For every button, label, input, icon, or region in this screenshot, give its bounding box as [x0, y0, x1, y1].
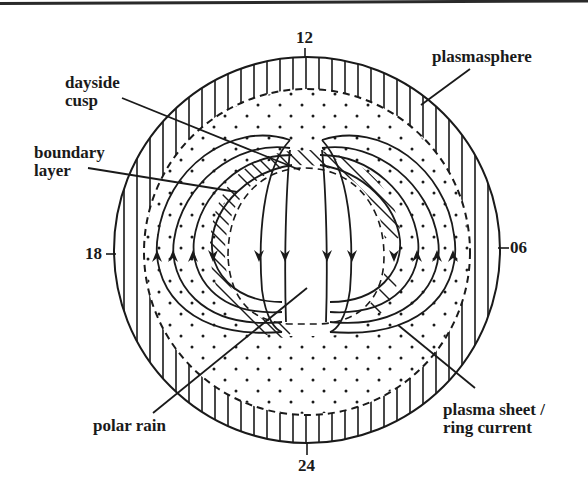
clock-marker-24: 24 [298, 457, 315, 475]
label-plasma-sheet: plasma sheet / ring current [443, 401, 545, 437]
clock-marker-06: 06 [510, 239, 527, 257]
clock-marker-18: 18 [85, 245, 102, 263]
label-plasma-sheet-line1: plasma sheet / [443, 401, 545, 419]
label-plasmasphere-line1: plasmasphere [432, 48, 532, 66]
label-dayside-cusp: dayside cusp [65, 74, 120, 110]
leader-plasmasphere [421, 69, 470, 105]
label-boundary-layer-line2: layer [34, 162, 105, 180]
label-dayside-cusp-line2: cusp [65, 92, 120, 110]
clock-marker-12: 12 [296, 29, 313, 47]
label-boundary-layer: boundary layer [34, 144, 105, 180]
label-dayside-cusp-line1: dayside [65, 74, 120, 92]
label-polar-rain: polar rain [93, 417, 166, 435]
label-plasma-sheet-line2: ring current [443, 419, 545, 437]
label-plasmasphere: plasmasphere [432, 48, 532, 66]
label-boundary-layer-line1: boundary [34, 144, 105, 162]
label-polar-rain-line1: polar rain [93, 417, 166, 435]
